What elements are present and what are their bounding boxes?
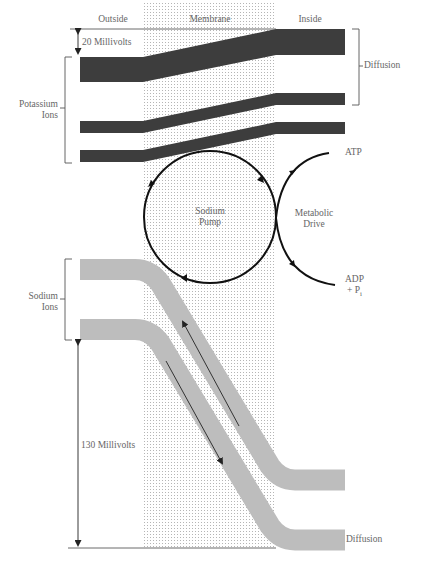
potassium-label-line2: Ions: [6, 110, 58, 121]
voltage-130-label: 130 Millivolts: [81, 440, 135, 451]
potassium-diffusion-bracket: [352, 29, 359, 105]
sodium-label-line2: Ions: [6, 302, 58, 313]
potassium-label-line1: Potassium: [6, 99, 58, 110]
metabolic-drive-label-line1: Metabolic: [284, 208, 344, 219]
potassium-bracket: [65, 57, 72, 163]
column-inside: Inside: [290, 14, 330, 25]
adp-label: ADP: [345, 274, 364, 285]
sodium-diffusion-label: Diffusion: [346, 534, 382, 545]
sodium-pump-label-line1: Sodium: [180, 206, 240, 217]
pi-text: + P: [347, 285, 360, 295]
column-outside: Outside: [88, 14, 138, 25]
sodium-label-line1: Sodium: [6, 291, 58, 302]
voltage-20-label: 20 Millivolts: [82, 37, 131, 48]
pi-label: + Pi: [347, 285, 362, 300]
metabolic-drive-label-line2: Drive: [284, 219, 344, 230]
pi-subscript: i: [360, 290, 362, 298]
potassium-diffusion-label: Diffusion: [364, 60, 400, 71]
atp-label: ATP: [345, 147, 362, 158]
sodium-pump-label-line2: Pump: [180, 217, 240, 228]
column-membrane: Membrane: [180, 14, 240, 25]
sodium-bracket: [65, 259, 72, 340]
